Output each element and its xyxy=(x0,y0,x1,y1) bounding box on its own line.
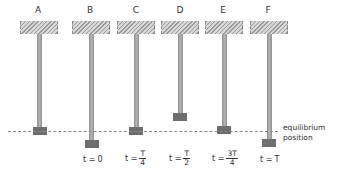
ceiling-support-d xyxy=(161,21,199,34)
time-label-d: t = T 2 xyxy=(169,150,190,167)
mass-e xyxy=(217,126,231,134)
label-a: A xyxy=(28,5,48,15)
label-c: C xyxy=(126,5,146,15)
ceiling-support-f xyxy=(250,21,288,34)
equilibrium-label-line1: equilibrium xyxy=(283,123,325,133)
label-e: E xyxy=(213,5,233,15)
mass-f xyxy=(262,139,276,147)
time-prefix: t = xyxy=(83,155,95,164)
mass-d xyxy=(173,113,187,121)
equilibrium-label-line2: position xyxy=(283,133,325,143)
rod-b xyxy=(89,34,94,140)
rod-f xyxy=(267,34,272,139)
time-fraction: 3T 4 xyxy=(226,150,237,167)
fraction-denominator: 4 xyxy=(140,159,145,167)
ceiling-support-e xyxy=(205,21,243,34)
time-value: 0 xyxy=(97,155,102,164)
time-label-e: t = 3T 4 xyxy=(212,150,238,167)
rod-a xyxy=(37,34,42,127)
time-fraction: T 4 xyxy=(139,150,146,167)
time-label-b: t = 0 xyxy=(83,155,102,164)
time-prefix: t = xyxy=(125,154,137,163)
time-value: T xyxy=(274,155,279,164)
label-f: F xyxy=(258,5,278,15)
time-prefix: t = xyxy=(260,155,272,164)
rod-c xyxy=(134,34,139,127)
ceiling-support-c xyxy=(117,21,155,34)
ceiling-support-b xyxy=(72,21,110,34)
time-fraction: T 2 xyxy=(183,150,190,167)
time-prefix: t = xyxy=(169,154,181,163)
fraction-denominator: 2 xyxy=(184,159,189,167)
rod-d xyxy=(178,34,183,113)
label-b: B xyxy=(80,5,100,15)
time-prefix: t = xyxy=(212,154,224,163)
equilibrium-line xyxy=(8,131,278,132)
equilibrium-label: equilibrium position xyxy=(283,123,325,143)
time-label-c: t = T 4 xyxy=(125,150,146,167)
mass-b xyxy=(85,140,99,148)
fraction-denominator: 4 xyxy=(230,159,235,167)
label-d: D xyxy=(170,5,190,15)
time-label-f: t = T xyxy=(260,155,279,164)
rod-e xyxy=(222,34,227,126)
ceiling-support-a xyxy=(20,21,58,34)
